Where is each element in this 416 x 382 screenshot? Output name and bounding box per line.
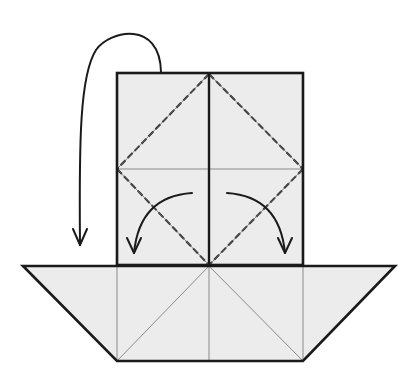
upper-panel bbox=[117, 73, 303, 266]
lower-trapezoid bbox=[23, 266, 395, 361]
origami-diagram bbox=[0, 0, 416, 382]
diagram-canvas bbox=[0, 0, 416, 382]
